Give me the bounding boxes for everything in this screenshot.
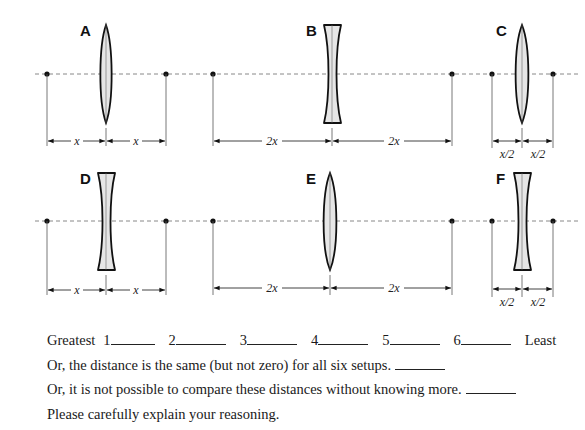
distance-label: x [73, 283, 80, 297]
distance-label: x [73, 134, 80, 148]
setup-d: D x x [44, 170, 168, 297]
distance-label: x [132, 283, 139, 297]
explain-line: Please carefully explain your reasoning. [47, 402, 556, 427]
least-label: Least [525, 332, 556, 348]
distance-label: x/2 [530, 295, 546, 309]
unknown-option-text: Or, it is not possible to compare these … [47, 381, 462, 397]
setup-label-c: C [496, 22, 507, 39]
unknown-option-line: Or, it is not possible to compare these … [47, 377, 556, 402]
rank-number: 6 [454, 332, 461, 348]
distance-label: 2x [266, 134, 278, 148]
same-option-line: Or, the distance is the same (but not ze… [47, 353, 556, 378]
distance-label: 2x [266, 281, 278, 295]
rank-number: 1 [103, 332, 110, 348]
rank-blank-3[interactable] [247, 333, 297, 345]
rank-blank-5[interactable] [390, 333, 440, 345]
distance-label: 2x [388, 134, 400, 148]
rank-number: 5 [382, 332, 389, 348]
distance-label: x/2 [499, 147, 515, 161]
greatest-label: Greatest [47, 332, 95, 348]
rank-number: 4 [311, 332, 318, 348]
rank-blank-2[interactable] [176, 333, 226, 345]
setup-label-f: F [496, 170, 505, 187]
unknown-option-blank[interactable] [466, 382, 516, 394]
distance-label: 2x [388, 281, 400, 295]
ranking-line: Greatest123456Least [47, 328, 556, 353]
setup-a: A x x [44, 22, 168, 148]
setup-b: B 2x 2x [210, 22, 454, 148]
setup-label-e: E [306, 170, 316, 187]
rank-number: 2 [169, 332, 176, 348]
setup-e: E 2x 2x [210, 170, 454, 295]
rank-blank-1[interactable] [111, 333, 155, 345]
question-text: Greatest123456Least Or, the distance is … [47, 328, 556, 426]
rank-blank-6[interactable] [461, 333, 511, 345]
same-option-text: Or, the distance is the same (but not ze… [47, 357, 391, 373]
distance-label: x/2 [499, 295, 515, 309]
setup-label-a: A [80, 22, 91, 39]
distance-label: x [132, 134, 139, 148]
setup-f: F x/2 x/2 [489, 170, 555, 309]
setup-label-b: B [306, 22, 317, 39]
same-option-blank[interactable] [395, 358, 445, 370]
lens-diagram: A x x B 2x 2x C [0, 0, 585, 320]
setup-c: C x/2 x/2 [489, 22, 555, 161]
setup-label-d: D [80, 170, 91, 187]
rank-number: 3 [240, 332, 247, 348]
rank-blank-4[interactable] [318, 333, 368, 345]
distance-label: x/2 [530, 147, 546, 161]
